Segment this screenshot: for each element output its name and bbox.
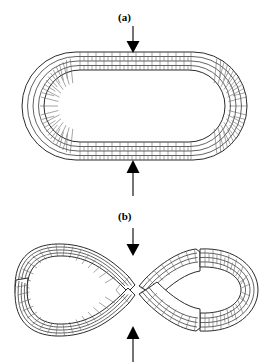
panel-b-seg-rl-outer: [200, 249, 258, 331]
panel-b-seg-ll-outer: [15, 278, 135, 336]
panel-b-top-load-arrow: [127, 228, 140, 256]
panel-b-ring: [15, 244, 258, 336]
panel-a-label: (a): [118, 12, 131, 23]
ring-buckling-figure: [0, 0, 270, 364]
panel-b-seg-ul-outer: [15, 244, 135, 302]
figure-root: (a) (b): [0, 0, 270, 364]
panel-a-ring: [22, 52, 247, 160]
panel-b-segment-right-lobe: [200, 249, 258, 331]
panel-b-bottom-load-arrow: [127, 326, 140, 362]
panel-b-label: (b): [118, 211, 131, 222]
panel-b-segment-lower-right: [139, 282, 200, 331]
panel-a-top-load-arrow: [127, 26, 140, 53]
panel-b-segment-lower-left: [15, 278, 135, 336]
panel-a-bottom-load-arrow: [127, 160, 140, 196]
panel-b-segment-upper-left: [15, 244, 135, 302]
